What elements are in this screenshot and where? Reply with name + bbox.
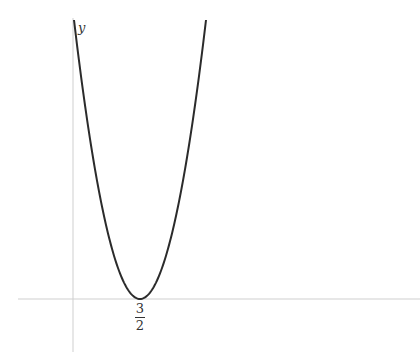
vertex-tick-label: 3 2: [133, 302, 147, 333]
plot-canvas: [0, 0, 420, 360]
y-axis-label: y: [78, 20, 85, 35]
tick-numerator: 3: [133, 302, 147, 316]
parabola-curve: [74, 20, 206, 299]
tick-denominator: 2: [133, 319, 147, 333]
